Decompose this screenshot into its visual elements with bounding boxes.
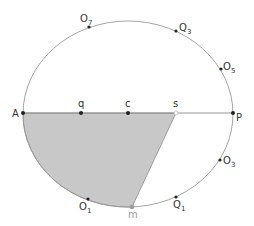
label-O7: O7 <box>80 13 92 27</box>
point-q <box>79 111 83 115</box>
point-P <box>231 111 235 115</box>
label-Q1: Q1 <box>173 199 185 213</box>
point-O3 <box>218 158 221 161</box>
point-O1 <box>86 197 89 200</box>
point-s <box>174 111 178 115</box>
label-A: A <box>12 108 19 119</box>
shaded-region <box>23 113 176 207</box>
label-m: m <box>128 209 138 220</box>
label-O5: O5 <box>223 61 235 75</box>
label-q: q <box>78 98 84 109</box>
label-O1: O1 <box>79 201 91 215</box>
label-O3: O3 <box>223 155 235 169</box>
point-A <box>21 111 25 115</box>
label-c: c <box>125 98 131 109</box>
point-c <box>126 111 130 115</box>
label-P: P <box>236 112 242 123</box>
point-Q3 <box>174 29 177 32</box>
label-s: s <box>173 98 178 109</box>
ellipse-diagram: A q c s P O7 Q3 O5 O3 Q1 O1 m <box>0 0 254 226</box>
